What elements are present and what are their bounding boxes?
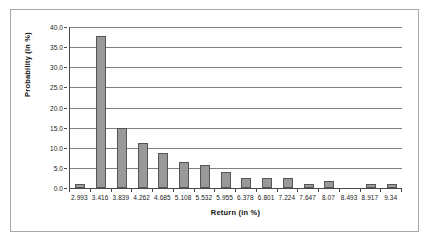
x-axis-title: Return (in %) <box>69 208 402 217</box>
x-axis-tick-mark <box>131 189 132 192</box>
x-axis-tick-label: 5.108 <box>175 194 192 201</box>
x-axis-tick-label: 8.917 <box>362 194 379 201</box>
y-axis-tick-mark <box>64 108 67 109</box>
bar <box>96 36 106 188</box>
y-axis-tick-label: 5.0 <box>54 164 63 171</box>
x-axis-tick-marks <box>69 189 402 193</box>
gridline <box>70 87 402 88</box>
bar <box>241 178 251 188</box>
x-axis-tick-mark <box>69 189 70 192</box>
y-axis-tick-labels: 0.05.010.015.020.025.030.035.040.0 <box>31 27 67 189</box>
x-axis-tick-mark <box>111 189 112 192</box>
gridline <box>70 47 402 48</box>
chart-frame: Probability (in %) 0.05.010.015.020.025.… <box>10 9 419 232</box>
bar <box>75 184 85 188</box>
x-axis-tick-mark <box>380 189 381 192</box>
gridline <box>70 67 402 68</box>
x-axis-tick-mark <box>194 189 195 192</box>
bar <box>221 172 231 189</box>
y-axis-tick-mark <box>64 148 67 149</box>
x-axis-tick-mark <box>152 189 153 192</box>
bar <box>200 165 210 188</box>
x-axis-tick-label: 8.493 <box>341 194 358 201</box>
bar <box>158 153 168 188</box>
y-axis-tick-mark <box>64 128 67 129</box>
y-axis-tick-label: 10.0 <box>50 144 63 151</box>
bar <box>262 178 272 188</box>
bar <box>366 184 376 188</box>
y-axis-tick-mark <box>64 27 67 28</box>
x-axis-tick-label: 6.378 <box>237 194 254 201</box>
x-axis-tick-label: 3.416 <box>92 194 109 201</box>
gridline <box>70 27 402 28</box>
y-axis-tick-label: 20.0 <box>50 104 63 111</box>
x-axis-tick-label: 5.955 <box>216 194 233 201</box>
bar <box>283 178 293 188</box>
x-axis-tick-mark <box>235 189 236 192</box>
x-axis-tick-mark <box>256 189 257 192</box>
plot-area <box>69 27 402 189</box>
x-axis-tick-label: 6.801 <box>258 194 275 201</box>
x-axis-tick-mark <box>401 189 402 192</box>
y-axis-tick-label: 0.0 <box>54 185 63 192</box>
x-axis-tick-labels: 2.9933.4163.8394.2624.6855.1085.5325.955… <box>69 194 402 206</box>
y-axis-tick-label: 15.0 <box>50 124 63 131</box>
x-axis-tick-mark <box>214 189 215 192</box>
bar <box>138 143 148 188</box>
y-axis-tick-label: 30.0 <box>50 64 63 71</box>
x-axis-tick-mark <box>90 189 91 192</box>
x-axis-tick-label: 5.532 <box>196 194 213 201</box>
bar <box>304 184 314 188</box>
x-axis-tick-label: 7.647 <box>299 194 316 201</box>
y-axis-tick-mark <box>64 168 67 169</box>
x-axis-tick-mark <box>173 189 174 192</box>
y-axis-tick-label: 35.0 <box>50 44 63 51</box>
x-axis-tick-label: 4.685 <box>154 194 171 201</box>
bar <box>387 184 397 188</box>
y-axis-tick-mark <box>64 87 67 88</box>
bar <box>117 128 127 188</box>
gridline <box>70 108 402 109</box>
y-axis-tick-mark <box>64 188 67 189</box>
y-axis-tick-label: 25.0 <box>50 84 63 91</box>
y-axis-tick-label: 40.0 <box>50 24 63 31</box>
x-axis-tick-label: 8.07 <box>322 194 335 201</box>
x-axis-tick-label: 3.839 <box>113 194 130 201</box>
x-axis-tick-label: 4.262 <box>133 194 150 201</box>
x-axis-tick-mark <box>339 189 340 192</box>
y-axis-tick-mark <box>64 47 67 48</box>
x-axis-tick-mark <box>297 189 298 192</box>
x-axis-tick-label: 2.993 <box>71 194 88 201</box>
bar <box>324 181 334 188</box>
y-axis-tick-mark <box>64 67 67 68</box>
bar <box>179 162 189 188</box>
x-axis-tick-mark <box>360 189 361 192</box>
x-axis-tick-label: 9.34 <box>384 194 397 201</box>
x-axis-tick-mark <box>277 189 278 192</box>
x-axis-tick-mark <box>318 189 319 192</box>
x-axis-tick-label: 7.224 <box>279 194 296 201</box>
